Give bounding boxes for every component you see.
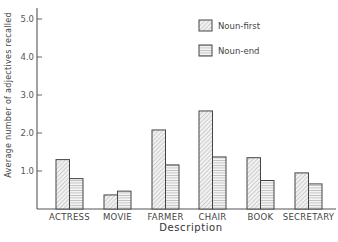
- legend-label-noun-first: Noun-first: [218, 21, 261, 31]
- legend-label-noun-end: Noun-end: [218, 46, 259, 56]
- bar-actress-noun-end: [70, 179, 84, 209]
- x-category-label: BOOK: [248, 212, 274, 222]
- legend: Noun-first Noun-end: [199, 20, 261, 56]
- x-category-label: SECRETARY: [283, 212, 335, 222]
- legend-swatch-noun-end: [199, 45, 212, 56]
- bar-secretary-noun-first: [295, 173, 309, 209]
- legend-swatch-noun-first: [199, 20, 212, 31]
- bar-chair-noun-end: [213, 157, 227, 209]
- bar-farmer-noun-first: [152, 130, 166, 209]
- bar-farmer-noun-end: [166, 165, 180, 209]
- y-tick-label: 3.0: [20, 90, 34, 100]
- x-category-label: FARMER: [147, 212, 183, 222]
- y-tick-label: 5.0: [20, 14, 34, 24]
- x-category-label: ACTRESS: [49, 212, 90, 222]
- bar-movie-noun-end: [118, 191, 132, 209]
- y-tick-label: 2.0: [20, 128, 34, 138]
- x-category-label: MOVIE: [103, 212, 132, 222]
- legend-item-noun-first: Noun-first: [199, 20, 261, 31]
- legend-item-noun-end: Noun-end: [199, 45, 259, 56]
- y-tick-label: 4.0: [20, 52, 34, 62]
- bars-group: [56, 111, 322, 209]
- x-axis-title: Description: [159, 222, 223, 233]
- bar-actress-noun-first: [56, 160, 70, 209]
- x-axis-labels: ACTRESSMOVIEFARMERCHAIRBOOKSECRETARY: [49, 212, 335, 222]
- y-axis-ticks: 1.02.03.04.05.0: [20, 14, 42, 176]
- bar-book-noun-first: [247, 158, 261, 209]
- bar-secretary-noun-end: [309, 184, 323, 209]
- y-axis-title-text: Average number of adjectives recalled: [4, 12, 13, 178]
- bar-movie-noun-first: [104, 195, 118, 209]
- bar-chair-noun-first: [199, 111, 213, 209]
- y-tick-label: 1.0: [20, 166, 34, 176]
- y-axis-title: Average number of adjectives recalled: [4, 12, 13, 178]
- x-category-label: CHAIR: [198, 212, 226, 222]
- bar-chart: Average number of adjectives recalled 1.…: [0, 0, 338, 242]
- bar-book-noun-end: [261, 181, 275, 210]
